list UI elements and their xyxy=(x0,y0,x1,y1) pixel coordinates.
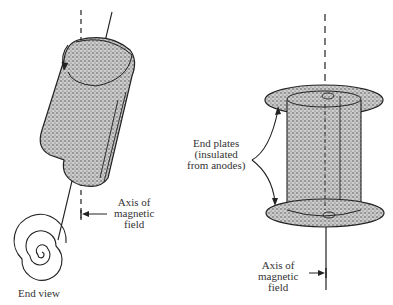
end-plates-label: End plates (insulated from anodes) xyxy=(187,138,245,171)
end-plates-label-line3: from anodes) xyxy=(187,160,245,171)
left-axis-label-line3: field xyxy=(114,219,154,230)
right-axis-label-line3: field xyxy=(258,282,298,293)
left-axis-label: Axis of magnetic field xyxy=(114,197,154,230)
right-axis-pointer xyxy=(309,268,326,278)
right-axis-label: Axis of magnetic field xyxy=(258,260,298,293)
left-axis-pointer xyxy=(81,210,107,218)
end-view-spiral xyxy=(14,214,66,280)
end-plates-pointer xyxy=(252,110,278,202)
end-view-label: End view xyxy=(18,288,60,299)
right-cylinder xyxy=(265,14,384,290)
